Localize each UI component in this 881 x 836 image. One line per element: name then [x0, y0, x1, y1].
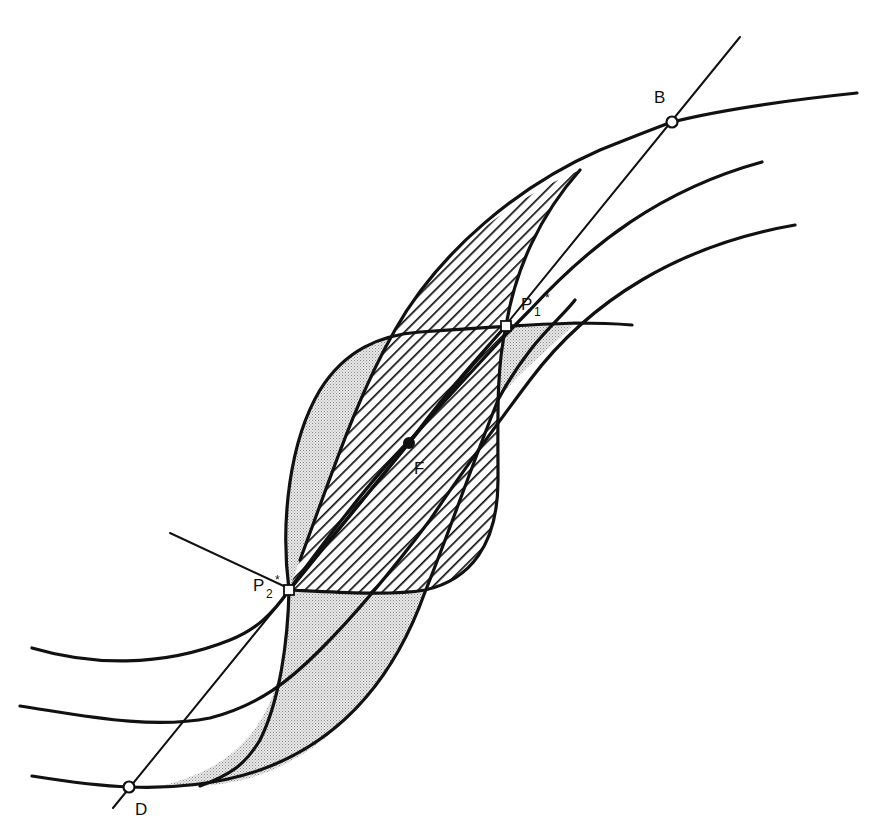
label-b: B: [654, 88, 665, 107]
point-d-marker: [124, 782, 135, 793]
point-p1-marker: [501, 321, 511, 331]
point-f-marker: [403, 437, 415, 449]
svg-text:1: 1: [534, 305, 541, 319]
label-d: D: [135, 800, 147, 819]
svg-text:*: *: [275, 573, 280, 587]
svg-text:2: 2: [266, 587, 273, 601]
svg-text:P: P: [521, 295, 532, 314]
point-b-marker: [667, 117, 678, 128]
point-p2-marker: [284, 585, 294, 595]
label-f: F: [414, 459, 424, 478]
svg-text:*: *: [545, 291, 550, 305]
svg-text:P: P: [253, 576, 264, 595]
tangent-line-p2: [170, 533, 288, 588]
geometric-diagram: B D F P 1 * P 2 *: [0, 0, 881, 836]
line-d-to-b: [113, 37, 740, 808]
